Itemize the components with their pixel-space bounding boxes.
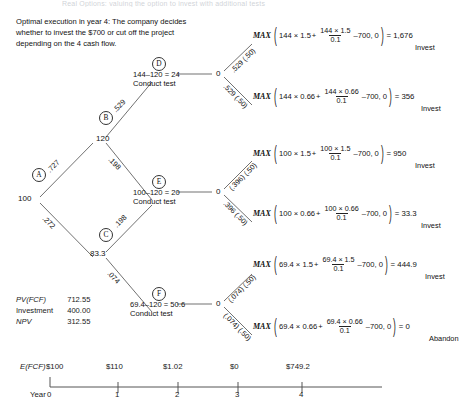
summary-value-investment: 400.00 bbox=[67, 305, 90, 316]
cropped-header-text: Real Options: valuing the option to inve… bbox=[62, 0, 392, 7]
timeline-value-4: $749.2 bbox=[286, 362, 310, 371]
result-6: = 0 bbox=[399, 322, 410, 331]
tree-node-f-action: Conduct test bbox=[130, 309, 173, 319]
timeline-row-label: E(FCF) bbox=[20, 362, 46, 371]
minus-term-3: –700, 0 bbox=[353, 149, 378, 158]
term-3: 100 × 1.5 bbox=[279, 149, 311, 158]
timeline-value-2: $1.02 bbox=[163, 362, 183, 371]
max-label-1: MAX bbox=[253, 31, 271, 40]
table-row: Investment 400.00 bbox=[16, 305, 90, 316]
tree-node-a[interactable]: A bbox=[32, 168, 46, 182]
outcome-expression-5: MAX ( 69.4 × 1.5 + 69.4 × 1.5 0.1 –700, … bbox=[253, 256, 445, 281]
outcome-prob-6: (.074) (.50) bbox=[222, 311, 254, 343]
fraction-6: 69.4 × 0.66 0.1 bbox=[326, 318, 364, 334]
tree-node-c[interactable]: C bbox=[99, 228, 113, 242]
tree-node-b-value: 120 bbox=[96, 134, 109, 143]
plus-sign-5: + bbox=[314, 260, 318, 269]
minus-term-1: –700, 0 bbox=[353, 31, 378, 40]
outcome-expression-6: MAX ( 69.4 × 0.66 + 69.4 × 0.66 0.1 –700… bbox=[253, 318, 459, 343]
summary-key-npv: NPV bbox=[16, 316, 67, 327]
table-row: PV(FCF) 712.55 bbox=[16, 294, 90, 305]
outcome-expression-1: MAX ( 144 × 1.5 + 144 × 1.5 0.1 –700, 0 … bbox=[253, 27, 435, 52]
tree-node-c-value: 83.3 bbox=[90, 249, 106, 258]
branch-prob-a-up: .727 bbox=[45, 158, 62, 175]
timeline-value-3: $0 bbox=[230, 362, 239, 371]
summary-key-pv: PV(FCF) bbox=[16, 294, 67, 305]
plus-sign-4: + bbox=[316, 209, 320, 218]
term-2: 144 × 0.66 bbox=[279, 92, 315, 101]
outcome-prob-4: .396 (.50) bbox=[222, 199, 250, 227]
branch-prob-c-up: .198 bbox=[112, 213, 129, 230]
term-4: 100 × 0.66 bbox=[279, 209, 315, 218]
branch-prob-a-down: .272 bbox=[41, 214, 58, 231]
minus-term-5: –700, 0 bbox=[358, 260, 383, 269]
tree-node-e-action: Conduct test bbox=[133, 197, 176, 207]
branch-prob-b-down: .198 bbox=[106, 155, 122, 172]
max-label-4: MAX bbox=[253, 209, 271, 218]
max-label-6: MAX bbox=[253, 322, 271, 331]
timeline-year-1: 1 bbox=[115, 390, 119, 399]
timeline-year-4: 4 bbox=[299, 390, 303, 399]
timeline-year-label: Year bbox=[30, 390, 46, 399]
result-2: = 356 bbox=[395, 92, 415, 101]
result-3: = 950 bbox=[387, 149, 407, 158]
term-6: 69.4 × 0.66 bbox=[279, 322, 317, 331]
plus-sign-1: + bbox=[312, 31, 316, 40]
branch-prob-b-up: .529 bbox=[111, 97, 127, 114]
timeline-year-3: 3 bbox=[235, 390, 239, 399]
minus-term-2: –700, 0 bbox=[362, 92, 387, 101]
max-label-2: MAX bbox=[253, 92, 271, 101]
tree-node-e[interactable]: E bbox=[152, 175, 166, 189]
tree-node-f[interactable]: F bbox=[152, 287, 166, 301]
minus-term-4: –700, 0 bbox=[362, 209, 387, 218]
result-4: = 33.3 bbox=[395, 209, 417, 218]
max-label-3: MAX bbox=[253, 149, 271, 158]
plus-sign-6: + bbox=[318, 322, 322, 331]
tree-node-d-action: Conduct test bbox=[133, 79, 176, 89]
fraction-3: 100 × 1.5 0.1 bbox=[319, 145, 351, 161]
action-5: Invest bbox=[425, 272, 445, 281]
table-row: NPV 312.55 bbox=[16, 316, 90, 327]
result-1: = 1,676 bbox=[387, 31, 413, 40]
action-2: Invest bbox=[421, 104, 441, 113]
tree-node-e-terminal: 0 bbox=[216, 187, 220, 196]
summary-value-npv: 312.55 bbox=[67, 316, 90, 327]
timeline-axis bbox=[0, 355, 453, 415]
tree-node-d[interactable]: D bbox=[152, 57, 166, 71]
action-4: Invest bbox=[421, 221, 441, 230]
timeline-value-0: $100 bbox=[46, 362, 63, 371]
fraction-4: 100 × 0.66 0.1 bbox=[324, 205, 360, 221]
fraction-5: 69.4 × 1.5 0.1 bbox=[321, 256, 355, 272]
fraction-1: 144 × 1.5 0.1 bbox=[319, 27, 351, 43]
minus-term-6: –700, 0 bbox=[366, 322, 391, 331]
intro-note: Optimal execution in year 4: The company… bbox=[16, 17, 206, 49]
outcome-expression-3: MAX ( 100 × 1.5 + 100 × 1.5 0.1 –700, 0 … bbox=[253, 145, 435, 170]
fraction-2: 144 × 0.66 0.1 bbox=[324, 88, 360, 104]
outcome-expression-2: MAX ( 144 × 0.66 + 144 × 0.66 0.1 –700, … bbox=[253, 88, 441, 113]
term-1: 144 × 1.5 bbox=[279, 31, 311, 40]
timeline-year-0: 0 bbox=[47, 390, 51, 399]
branch-prob-c-down: .074 bbox=[105, 269, 121, 286]
tree-node-b[interactable]: B bbox=[99, 111, 113, 125]
summary-value-pv: 712.55 bbox=[67, 294, 90, 305]
action-6: Abandon bbox=[429, 334, 459, 343]
max-label-5: MAX bbox=[253, 260, 271, 269]
term-5: 69.4 × 1.5 bbox=[279, 260, 313, 269]
outcome-expression-4: MAX ( 100 × 0.66 + 100 × 0.66 0.1 –700, … bbox=[253, 205, 441, 230]
timeline-value-1: $110 bbox=[106, 362, 123, 371]
tree-node-d-terminal: 0 bbox=[216, 69, 220, 78]
action-3: Invest bbox=[415, 161, 435, 170]
tree-node-a-value: 100 bbox=[18, 194, 31, 203]
summary-table: PV(FCF) 712.55 Investment 400.00 NPV 312… bbox=[16, 294, 90, 327]
plus-sign-3: + bbox=[312, 149, 316, 158]
result-5: = 444.9 bbox=[391, 260, 417, 269]
cash-flow-timeline: E(FCF) Year $100 $110 $1.02 $0 $749.2 0 … bbox=[0, 355, 453, 415]
action-1: Invest bbox=[415, 43, 435, 52]
timeline-year-2: 2 bbox=[175, 390, 179, 399]
tree-node-f-terminal: 0 bbox=[216, 299, 220, 308]
plus-sign-2: + bbox=[316, 92, 320, 101]
summary-key-investment: Investment bbox=[16, 305, 67, 316]
outcome-prob-2: .529 (.50) bbox=[222, 82, 250, 110]
